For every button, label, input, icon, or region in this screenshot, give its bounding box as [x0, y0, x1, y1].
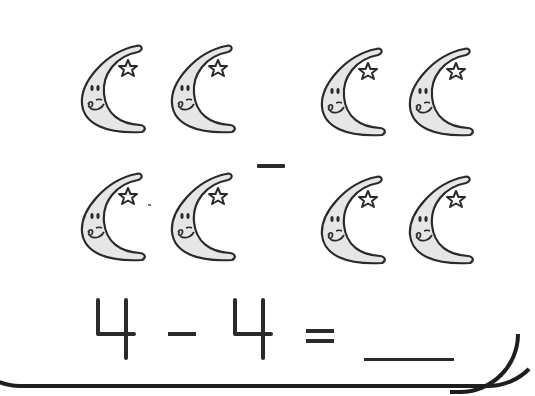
left-operand: 4 [96, 298, 136, 364]
right-operand: 4 [233, 298, 273, 364]
stray-mark [148, 204, 151, 206]
equals-sign: = [306, 329, 334, 343]
moon-icon [404, 45, 476, 137]
minus-sign: - [168, 332, 196, 336]
moon-icon [166, 42, 238, 134]
equation-row: 4 - 4 = [0, 296, 518, 366]
moon-icon [404, 173, 476, 265]
moon-icon [166, 170, 238, 262]
moon-icon [76, 42, 148, 134]
moon-icon [76, 170, 148, 262]
answer-blank[interactable] [364, 358, 454, 361]
group-minus-sign [257, 164, 285, 168]
moon-icon [316, 45, 388, 137]
moon-icon [316, 173, 388, 265]
